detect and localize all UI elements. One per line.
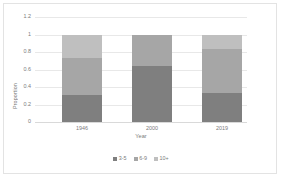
legend-item-10plus[interactable]: 10+	[154, 156, 169, 161]
x-tick-label-1946: 1946	[52, 126, 112, 131]
x-tick-label-2019: 2019	[192, 126, 252, 131]
y-tick-label-0-8: 0.8	[24, 49, 32, 54]
bar-segment-2019-6-9[interactable]	[202, 49, 242, 94]
bar-segment-2019-3-5[interactable]	[202, 93, 242, 122]
bar-segment-2019-10plus[interactable]	[202, 35, 242, 49]
gridline-1-2	[35, 17, 247, 18]
bar-segment-1946-3-5[interactable]	[62, 95, 102, 122]
legend-swatch-icon-3-5	[113, 157, 117, 161]
y-tick-label-0-2: 0.2	[24, 102, 32, 107]
chart-container: Proportion 1.2 1 0.8 0.6 0.4 0.2 0	[3, 3, 277, 174]
y-tick-label-0-4: 0.4	[24, 84, 32, 89]
gridline-0	[35, 122, 247, 123]
legend-swatch-icon-10plus	[154, 157, 158, 161]
y-tick-label-1-2: 1.2	[24, 14, 32, 19]
y-tick-label-0: 0	[28, 119, 31, 124]
bar-segment-2000-3-5[interactable]	[132, 66, 172, 122]
legend: 3-5 6-9 10+	[4, 156, 278, 161]
bar-segment-1946-10plus[interactable]	[62, 35, 102, 59]
legend-item-3-5[interactable]: 3-5	[113, 156, 126, 161]
plot-area: 1.2 1 0.8 0.6 0.4 0.2 0 1946	[35, 17, 247, 122]
y-tick-label-1-0: 1	[28, 32, 31, 37]
legend-swatch-icon-6-9	[134, 157, 138, 161]
x-tick-label-2000: 2000	[122, 126, 182, 131]
legend-label-6-9: 6-9	[139, 156, 147, 161]
x-axis-title: Year	[35, 134, 247, 140]
y-tick-label-0-6: 0.6	[24, 67, 32, 72]
legend-item-6-9[interactable]: 6-9	[134, 156, 147, 161]
bar-segment-1946-6-9[interactable]	[62, 58, 102, 95]
legend-label-10plus: 10+	[160, 156, 169, 161]
y-axis-title: Proportion	[12, 4, 18, 109]
bar-segment-2000-6-9[interactable]	[132, 35, 172, 67]
legend-label-3-5: 3-5	[119, 156, 127, 161]
